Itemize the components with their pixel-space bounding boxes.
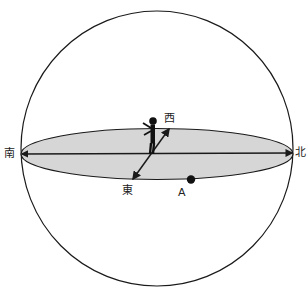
point-a-marker	[187, 175, 195, 183]
label-point-a: A	[178, 187, 186, 198]
label-north: 北	[295, 147, 306, 158]
label-south: 南	[4, 148, 15, 159]
celestial-sphere-diagram	[0, 0, 307, 294]
label-west: 西	[164, 113, 175, 124]
label-east: 東	[122, 185, 133, 196]
